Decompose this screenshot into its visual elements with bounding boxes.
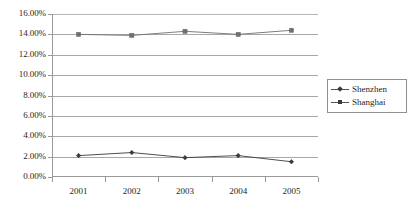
y-axis-tick-label: 0.00%: [0, 172, 46, 181]
legend-item-shanghai: Shanghai: [331, 96, 404, 109]
y-axis-tick-label: 4.00%: [0, 131, 46, 140]
y-axis-tick-label: 14.00%: [0, 29, 46, 38]
series-shenzhen: [76, 150, 293, 164]
data-point-diamond-icon: [130, 150, 135, 155]
x-axis-tick: [265, 177, 266, 182]
data-point-square-icon: [77, 32, 81, 36]
data-point-square-icon: [236, 32, 240, 36]
data-point-diamond-icon: [289, 159, 294, 164]
y-axis-tick-label: 2.00%: [0, 152, 46, 161]
legend-marker-diamond-icon: [331, 84, 349, 95]
legend-item-shenzhen: Shenzhen: [331, 83, 404, 96]
x-axis-tick: [318, 177, 319, 182]
series-layer: [52, 14, 318, 177]
y-axis-tick-label: 6.00%: [0, 111, 46, 120]
x-axis-tick-label: 2001: [70, 186, 88, 196]
x-axis-tick: [105, 177, 106, 182]
x-axis-tick-label: 2003: [176, 186, 194, 196]
data-point-square-icon: [183, 29, 187, 33]
data-point-diamond-icon: [76, 153, 81, 158]
x-axis-tick: [158, 177, 159, 182]
y-axis-tick-label: 12.00%: [0, 50, 46, 59]
y-axis-tick-label: 10.00%: [0, 70, 46, 79]
series-shanghai: [77, 28, 294, 37]
legend-marker-square-icon: [331, 97, 349, 108]
legend-label-shanghai: Shanghai: [352, 97, 386, 108]
x-axis-tick-label: 2005: [282, 186, 300, 196]
y-axis-tick-label: 16.00%: [0, 9, 46, 18]
data-point-diamond-icon: [183, 155, 188, 160]
legend-label-shenzhen: Shenzhen: [352, 84, 387, 95]
y-axis-tick-label: 8.00%: [0, 91, 46, 100]
x-axis-tick: [52, 177, 53, 182]
x-axis-tick-label: 2002: [123, 186, 141, 196]
chart-legend: Shenzhen Shanghai: [327, 79, 407, 113]
x-axis-tick-label: 2004: [229, 186, 247, 196]
data-point-square-icon: [289, 28, 293, 32]
data-point-diamond-icon: [236, 153, 241, 158]
x-axis-tick: [212, 177, 213, 182]
data-point-square-icon: [130, 33, 134, 37]
y-axis-labels: 0.00%2.00%4.00%6.00%8.00%10.00%12.00%14.…: [0, 0, 46, 207]
